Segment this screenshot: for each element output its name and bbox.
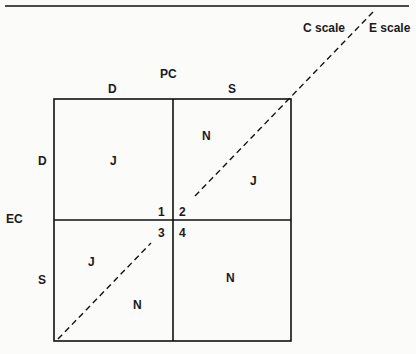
left-axis-s-label: S [38, 274, 46, 286]
quadrant-2-label-j: J [250, 175, 257, 187]
quadrant-1-number: 1 [158, 206, 165, 218]
quadrant-1-label: J [110, 155, 117, 167]
diagonal-dashed-lower [58, 243, 151, 339]
pc-axis-title: PC [160, 68, 177, 80]
quadrant-3-label-n: N [133, 299, 142, 311]
quadrant-2-label-n: N [202, 130, 211, 142]
diagonal-dashed-upper [195, 12, 373, 196]
quadrant-2-number: 2 [179, 206, 186, 218]
left-axis-d-label: D [38, 155, 47, 167]
top-axis-d-label: D [108, 83, 117, 95]
quadrant-4-label: N [226, 272, 235, 284]
quadrant-4-number: 4 [179, 227, 186, 239]
quadrant-3-number: 3 [158, 227, 165, 239]
top-axis-s-label: S [228, 83, 236, 95]
ec-axis-title: EC [6, 213, 23, 225]
c-scale-label: C scale [303, 22, 345, 34]
e-scale-label: E scale [369, 22, 410, 34]
diagram-lines [0, 0, 416, 354]
quadrant-3-label-j: J [88, 256, 95, 268]
